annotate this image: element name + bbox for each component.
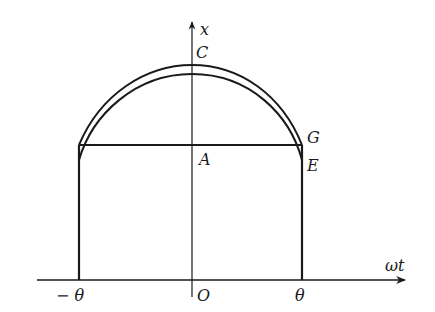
y-axis-label: x bbox=[200, 20, 209, 39]
waveform-diagram: x C A G E ωt O − θ θ bbox=[0, 0, 435, 312]
point-A-label: A bbox=[197, 150, 211, 169]
origin-label: O bbox=[197, 286, 210, 305]
point-G-label: G bbox=[307, 128, 320, 147]
point-C-label: C bbox=[196, 43, 208, 62]
tick-pos-theta-label: θ bbox=[295, 286, 305, 305]
x-axis-label: ωt bbox=[385, 256, 405, 275]
inner-cosine-curve bbox=[79, 74, 302, 160]
tick-neg-theta-label: − θ bbox=[56, 286, 84, 305]
point-E-label: E bbox=[306, 156, 319, 175]
